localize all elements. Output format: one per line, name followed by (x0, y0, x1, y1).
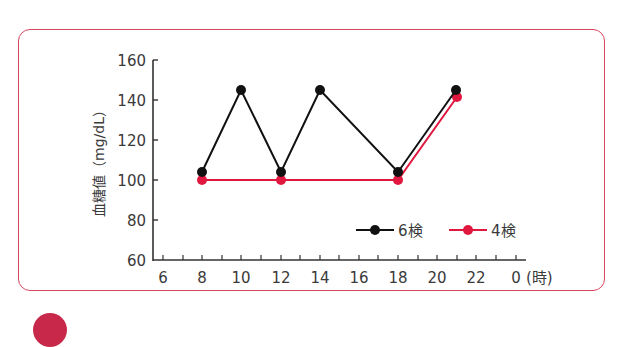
x-tick-12: 12 (271, 269, 290, 287)
x-tick-18: 18 (388, 269, 407, 287)
x-tick-8: 8 (197, 269, 207, 287)
x-tick-22: 22 (466, 269, 485, 287)
y-tick-80: 80 (127, 212, 146, 230)
x-tick-20: 20 (427, 269, 446, 287)
y-tick-120: 120 (117, 132, 146, 150)
legend-item-4ken: 4検 (449, 222, 516, 240)
x-tick-10: 10 (231, 269, 250, 287)
y-tick-140: 140 (117, 92, 146, 110)
y-axis (153, 60, 158, 261)
y-tick-60: 60 (127, 252, 146, 270)
series-6ken (197, 85, 461, 177)
x-tick-16: 16 (349, 269, 368, 287)
legend-label-6ken: 6検 (398, 222, 423, 240)
x-tick-0: 0 (511, 269, 521, 287)
x-tick-6: 6 (158, 269, 168, 287)
x-axis (153, 255, 526, 260)
legend-item-6ken: 6検 (356, 222, 423, 240)
y-tick-100: 100 (117, 172, 146, 190)
x-tick-labels: 6 8 10 12 14 16 18 20 22 0 (時) (158, 269, 552, 287)
x-tick-14: 14 (310, 269, 329, 287)
y-tick-labels: 160 140 120 100 80 60 (117, 52, 146, 270)
legend-label-4ken: 4検 (491, 222, 516, 240)
y-tick-160: 160 (117, 52, 146, 70)
y-axis-title: 血糖値（mg/dL） (91, 103, 107, 217)
x-axis-unit: (時) (526, 269, 553, 287)
legend: 6検 4検 (356, 222, 516, 240)
